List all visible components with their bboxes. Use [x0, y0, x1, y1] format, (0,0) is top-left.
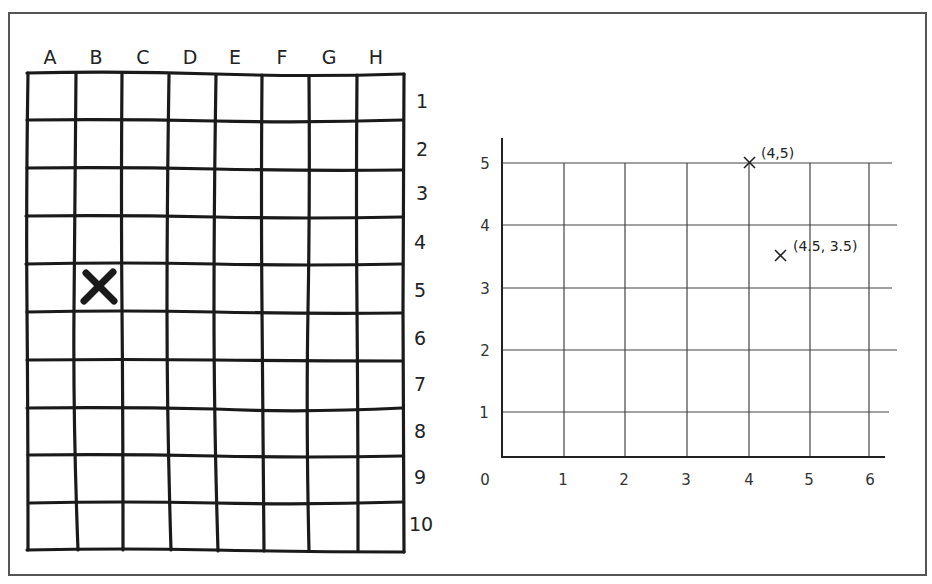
row-label: 2: [416, 138, 428, 160]
letter-number-grid: [26, 72, 404, 552]
figure-canvas: A B C D E F G H 1 2 3 4 5 6 7 8 9 10: [0, 0, 932, 584]
y-tick-labels: 1 2 3 4 5: [479, 155, 490, 422]
grid-vline: [27, 73, 28, 550]
grid-hline: [27, 549, 404, 552]
row-labels: 1 2 3 4 5 6 7 8 9 10: [409, 90, 433, 535]
column-label: F: [277, 46, 288, 68]
x-tick-label: 6: [865, 471, 875, 489]
x-tick-label: 1: [558, 471, 568, 489]
x-tick-label: 4: [744, 471, 754, 489]
column-label: D: [183, 46, 198, 68]
grid-vline: [122, 74, 124, 550]
column-label: H: [369, 46, 383, 68]
x-tick-label: 3: [681, 471, 691, 489]
row-label: 9: [414, 466, 426, 488]
x-tick-label: 5: [804, 471, 814, 489]
y-tick-label: 5: [480, 155, 490, 173]
column-label: E: [229, 46, 241, 68]
row-label: 5: [414, 279, 426, 301]
row-label: 10: [409, 513, 433, 535]
row-label: 3: [416, 182, 428, 204]
grid-vline: [307, 77, 309, 551]
grid-vline: [403, 74, 404, 552]
row-label: 6: [414, 327, 426, 349]
vertical-gridlines: [564, 163, 869, 457]
y-tick-label: 4: [480, 217, 490, 235]
coordinate-chart: 1 2 3 4 5 0 1 2 3 4 5 6 (4,5): [479, 138, 897, 489]
x-tick-label: 0: [480, 471, 490, 489]
column-labels: A B C D E F G H: [44, 46, 384, 68]
point-label: (4,5): [761, 145, 794, 161]
row-label: 8: [414, 420, 426, 442]
column-label: A: [44, 46, 57, 68]
row-label: 7: [414, 373, 426, 395]
row-label: 1: [416, 90, 428, 112]
x-tick-label: 2: [619, 471, 629, 489]
column-label: G: [322, 46, 337, 68]
row-label: 4: [414, 231, 426, 253]
column-label: B: [89, 46, 102, 68]
x-marker-icon: [775, 250, 786, 261]
column-label: C: [136, 46, 149, 68]
grid-vline: [357, 75, 359, 551]
y-tick-label: 1: [479, 404, 489, 422]
horizontal-gridlines: [503, 163, 897, 412]
x-mark-icon: [84, 272, 114, 301]
x-tick-labels: 0 1 2 3 4 5 6: [480, 471, 875, 489]
point-label: (4.5, 3.5): [793, 238, 857, 254]
data-point: (4,5): [744, 145, 794, 168]
data-point: (4.5, 3.5): [775, 238, 857, 261]
y-tick-label: 2: [480, 342, 490, 360]
y-tick-label: 3: [480, 280, 490, 298]
